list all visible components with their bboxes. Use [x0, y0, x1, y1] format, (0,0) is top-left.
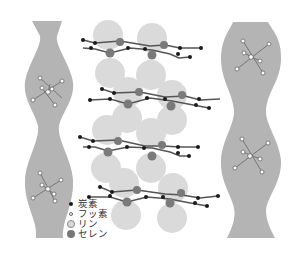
crystal-structure-diagram: [0, 0, 302, 256]
carbon-marker-icon: [66, 199, 76, 209]
fluorine-marker-icon: [66, 209, 76, 219]
legend-item-selenium: セレン: [66, 229, 108, 239]
phosphorus-marker-icon: [66, 219, 76, 229]
legend-label: セレン: [78, 229, 108, 239]
selenium-marker-icon: [66, 229, 76, 239]
legend: 炭素 フッ素 リン セレン: [66, 199, 108, 239]
molecule-layer-2: [88, 87, 220, 111]
